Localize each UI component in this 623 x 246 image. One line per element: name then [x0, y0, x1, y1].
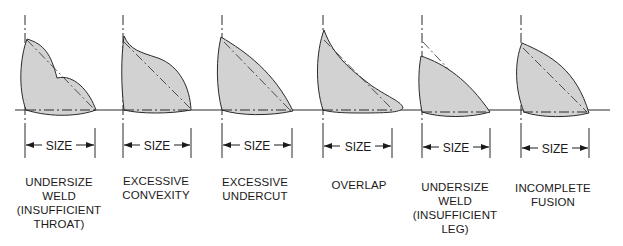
size-label: SIZE — [144, 139, 171, 153]
caption-undersize-leg: UNDERSIZE WELD (INSUFFICIENT LEG) — [400, 180, 510, 236]
size-dimension-2: SIZE — [123, 128, 191, 158]
weld-bead-shape — [21, 39, 96, 115]
size-dimension-5: SIZE — [422, 128, 490, 158]
size-label: SIZE — [542, 142, 569, 156]
size-dimension-4: SIZE — [323, 128, 392, 158]
weld-bead-shape — [419, 56, 490, 117]
weld-profile-overlap — [317, 15, 403, 128]
weld-bead-shape — [217, 37, 293, 115]
size-label: SIZE — [345, 140, 372, 154]
weld-profile-undersize-throat — [21, 15, 96, 128]
caption-incomplete-fusion: INCOMPLETE FUSION — [498, 181, 608, 209]
weld-bead-shape — [122, 36, 191, 113]
weld-profile-excessive-convexity — [122, 15, 191, 128]
size-dimension-6: SIZE — [521, 128, 589, 158]
size-label: SIZE — [443, 141, 470, 155]
weld-profile-excessive-undercut — [217, 15, 293, 128]
size-dimension-3: SIZE — [222, 128, 292, 158]
weld-profile-undersize-leg — [419, 15, 490, 128]
weld-profile-incomplete-fusion — [517, 15, 589, 128]
weld-bead-shape — [517, 43, 589, 117]
weld-bead-shape — [317, 30, 403, 113]
size-label: SIZE — [46, 139, 73, 153]
caption-excessive-undercut: EXCESSIVE UNDERCUT — [200, 175, 310, 203]
caption-undersize-throat: UNDERSIZE WELD (INSUFFICIENT THROAT) — [4, 175, 114, 231]
size-dimension-1: SIZE — [25, 128, 95, 158]
caption-excessive-convexity: EXCESSIVE CONVEXITY — [101, 174, 211, 202]
caption-overlap: OVERLAP — [304, 178, 414, 192]
size-label: SIZE — [244, 139, 271, 153]
